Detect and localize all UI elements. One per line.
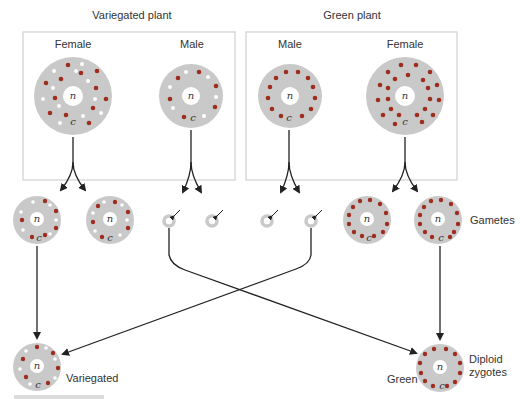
inheritance-diagram: Variegated plant Green plant Female Male… [0, 0, 526, 399]
fertilization-arrows [37, 228, 440, 354]
svg-text:n: n [402, 90, 408, 101]
svg-text:c: c [190, 112, 196, 123]
svg-text:c: c [438, 232, 444, 243]
svg-text:c: c [439, 380, 445, 391]
svg-text:n: n [107, 213, 113, 224]
svg-text:c: c [402, 116, 408, 127]
variegated-pollen-2 [207, 210, 223, 226]
variegated-female-cell: n c [34, 57, 112, 135]
svg-text:n: n [188, 90, 194, 101]
variegated-male-cell: n c [159, 64, 223, 128]
svg-text:n: n [70, 90, 76, 101]
svg-text:c: c [36, 232, 42, 243]
green-egg-2: n c [414, 196, 462, 244]
variegated-zygote-label: Variegated [66, 372, 118, 384]
svg-text:c: c [107, 232, 113, 243]
svg-text:n: n [34, 213, 40, 224]
svg-text:c: c [70, 116, 76, 127]
green-plant-title: Green plant [323, 9, 380, 21]
variegated-female-label: Female [55, 38, 92, 50]
svg-text:n: n [287, 90, 293, 101]
diploid-label-line1: Diploid [469, 353, 503, 365]
green-pollen-2 [306, 210, 322, 226]
svg-text:n: n [435, 213, 441, 224]
gametes-label: Gametes [470, 214, 515, 226]
svg-text:c: c [35, 379, 41, 390]
green-zygote-label: Green [387, 373, 418, 385]
variegated-plant-title: Variegated plant [92, 9, 171, 21]
svg-text:c: c [286, 112, 292, 123]
parent-to-gamete-arrows [61, 130, 417, 192]
green-male-label: Male [278, 38, 302, 50]
svg-text:n: n [34, 360, 40, 371]
variegated-egg-1: n c [13, 196, 61, 244]
svg-text:c: c [366, 232, 372, 243]
green-zygote: n c [416, 344, 464, 392]
caption-fragment [14, 395, 104, 399]
variegated-male-label: Male [180, 38, 204, 50]
variegated-zygote: n c [13, 343, 61, 391]
green-female-label: Female [387, 38, 424, 50]
svg-text:n: n [364, 213, 370, 224]
variegated-pollen-1 [164, 210, 180, 226]
svg-text:n: n [437, 361, 443, 372]
green-female-cell: n c [366, 57, 444, 135]
variegated-egg-2: n c [86, 196, 134, 244]
green-egg-1: n c [343, 196, 391, 244]
diploid-label-line2: zygotes [469, 366, 507, 378]
green-pollen-1 [262, 210, 278, 226]
green-male-cell: n c [258, 64, 322, 128]
